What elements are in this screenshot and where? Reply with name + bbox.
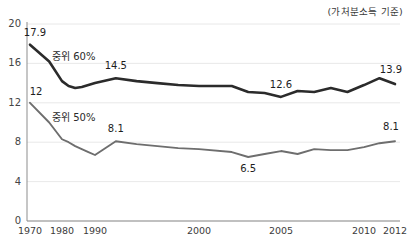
- x-axis-tick-labels: 1970198019902000200520102012: [18, 225, 407, 236]
- y-tick-label-16: 16: [8, 57, 21, 68]
- y-axis-tick-labels: 048121620: [8, 18, 21, 226]
- data-point-labels: 17.914.512.613.9128.16.58.1: [24, 27, 402, 174]
- x-tick-label-1990: 1990: [83, 225, 107, 236]
- data-point-label-6-5-6: 6.5: [240, 163, 256, 174]
- y-tick-label-4: 4: [15, 176, 21, 187]
- data-point-label-8-1-7: 8.1: [383, 121, 399, 132]
- data-point-label-12-6-2: 12.6: [270, 79, 292, 90]
- series-inline-label-1: 중위 50%: [52, 111, 95, 123]
- x-tick-label-2012: 2012: [383, 225, 407, 236]
- y-tick-label-12: 12: [8, 97, 21, 108]
- x-tick-label-1980: 1980: [50, 225, 74, 236]
- series-inline-label-0: 중위 60%: [52, 50, 95, 62]
- x-tick-label-2010: 2010: [352, 225, 376, 236]
- data-point-label-17-9-0: 17.9: [24, 27, 46, 38]
- x-tick-label-2000: 2000: [187, 225, 211, 236]
- y-tick-label-8: 8: [15, 136, 21, 147]
- data-point-label-14-5-1: 14.5: [105, 60, 127, 71]
- y-tick-label-20: 20: [8, 18, 21, 29]
- x-tick-label-2005: 2005: [269, 225, 293, 236]
- data-point-label-8-1-5: 8.1: [108, 123, 124, 134]
- chart-container: (가처분소득 기준) 048121620 1970198019902000200…: [0, 0, 409, 244]
- line-chart-plot: 048121620 1970198019902000200520102012 중…: [0, 0, 409, 244]
- data-point-label-13-9-3: 13.9: [380, 64, 402, 75]
- x-tick-label-1970: 1970: [18, 225, 42, 236]
- data-point-label-12-4: 12: [30, 86, 43, 97]
- series-line-median-50: [30, 103, 395, 157]
